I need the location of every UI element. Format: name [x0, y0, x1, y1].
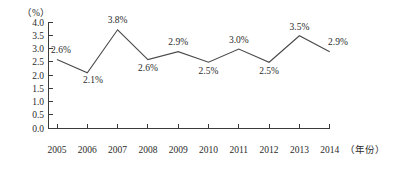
- x-axis-tick-labels: 2005 2006 2007 2008 2009 2010 2011 2012 …: [48, 145, 340, 155]
- data-point-label: 2.1%: [83, 75, 103, 85]
- x-tick-label: 2012: [260, 145, 279, 155]
- x-tick-label: 2009: [169, 145, 188, 155]
- data-point-label: 3.8%: [108, 15, 128, 25]
- x-axis-ticks: [57, 124, 330, 129]
- x-tick-label: 2011: [229, 145, 248, 155]
- data-point-label: 2.6%: [51, 45, 71, 55]
- y-axis-ticks: [49, 22, 54, 115]
- x-axis-unit-label: （年份）: [345, 144, 385, 155]
- y-tick-label: 4.0: [32, 18, 44, 28]
- y-tick-label: 1.5: [32, 84, 44, 94]
- y-tick-label: 3.5: [32, 31, 44, 41]
- y-tick-label: 0.5: [32, 110, 44, 120]
- y-tick-label: 0.0: [32, 124, 44, 134]
- data-point-label: 2.9%: [168, 37, 188, 47]
- data-point-label: 3.5%: [290, 22, 310, 32]
- y-axis-tick-labels: 4.0 3.5 3.0 2.5 2.0 1.5 1.0 0.5 0.0: [32, 18, 44, 134]
- x-tick-label: 2010: [199, 145, 218, 155]
- data-point-label: 2.5%: [259, 66, 279, 76]
- y-tick-label: 1.0: [32, 97, 44, 107]
- y-tick-label: 2.0: [32, 71, 44, 81]
- x-tick-label: 2013: [290, 145, 309, 155]
- x-tick-label: 2014: [320, 145, 339, 155]
- data-point-label: 2.6%: [138, 63, 158, 73]
- y-tick-label: 3.0: [32, 44, 44, 54]
- x-tick-label: 2007: [108, 145, 127, 155]
- y-axis-unit-label: （%）: [22, 7, 50, 18]
- data-point-labels: 2.6% 2.1% 3.8% 2.6% 2.9% 2.5% 3.0% 2.5% …: [51, 15, 348, 85]
- x-tick-label: 2008: [138, 145, 157, 155]
- data-point-label: 2.5%: [199, 66, 219, 76]
- x-tick-label: 2006: [78, 145, 97, 155]
- data-series-line: [57, 30, 330, 73]
- y-tick-label: 2.5: [32, 57, 44, 67]
- data-point-label: 3.0%: [229, 35, 249, 45]
- chart-page: （%） 4.0 3.5 3.0 2.5 2.0 1.5 1.0 0.5 0.0: [0, 0, 398, 170]
- line-chart: （%） 4.0 3.5 3.0 2.5 2.0 1.5 1.0 0.5 0.0: [0, 0, 398, 170]
- data-point-label: 2.9%: [328, 37, 348, 47]
- x-tick-label: 2005: [48, 145, 67, 155]
